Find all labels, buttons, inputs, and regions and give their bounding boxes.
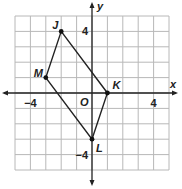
x-tick-label: 4 [151, 97, 158, 109]
vertex-label-l: L [96, 142, 103, 154]
x-tick-label: −4 [24, 97, 37, 109]
origin-label: O [80, 96, 89, 108]
x-axis-left-arrow-icon [2, 91, 8, 96]
y-axis-label: y [96, 0, 104, 12]
vertex-point-l [90, 137, 95, 142]
vertex-point-k [105, 91, 110, 96]
vertex-label-m: M [34, 67, 44, 79]
coordinate-plane: JKLMxyO−444−4 [0, 0, 182, 189]
axes [2, 2, 178, 186]
vertex-label-k: K [112, 79, 121, 91]
vertex-label-j: J [52, 19, 59, 31]
y-tick-label: −4 [75, 149, 88, 161]
y-tick-label: 4 [82, 25, 89, 37]
x-axis-right-arrow-icon [172, 91, 178, 96]
vertex-point-m [43, 75, 48, 80]
y-axis-down-arrow-icon [90, 180, 95, 186]
y-axis-up-arrow-icon [90, 2, 95, 8]
x-axis-label: x [169, 78, 177, 90]
vertex-point-j [59, 29, 64, 34]
